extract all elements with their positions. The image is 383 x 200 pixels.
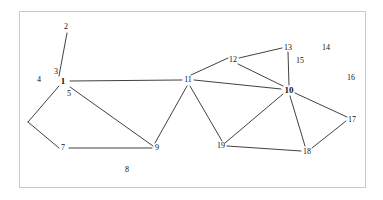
graph-edge-9-11	[155, 86, 187, 143]
graph-node-label-11[interactable]: 11	[184, 76, 192, 84]
graph-node-label-9[interactable]: 9	[155, 144, 159, 152]
graph-node-label-12[interactable]: 12	[229, 56, 237, 64]
graph-edge-11-19	[190, 86, 222, 141]
graph-edge-2-1	[59, 33, 67, 76]
graph-edge-1-9	[70, 87, 153, 146]
graph-edge-13-10	[288, 52, 289, 85]
graph-node-label-13[interactable]: 13	[284, 44, 292, 52]
graph-edge-19-18	[227, 146, 301, 151]
graph-edge-11-12	[191, 58, 228, 75]
graph-node-label-5[interactable]: 5	[67, 90, 71, 98]
graph-node-label-4[interactable]: 4	[37, 76, 41, 84]
graph-edge-10-18	[290, 96, 305, 146]
graph-node-label-1[interactable]: 1	[61, 77, 66, 86]
graph-edge-6-7	[28, 122, 59, 148]
graph-node-label-19[interactable]: 19	[217, 142, 225, 150]
graph-node-label-8[interactable]: 8	[125, 166, 129, 174]
graph-edge-10-17	[295, 93, 347, 117]
graph-node-label-17[interactable]: 17	[348, 116, 356, 124]
graph-node-label-16[interactable]: 16	[347, 74, 355, 82]
graph-edge-11-10	[194, 80, 281, 89]
graph-node-label-15[interactable]: 15	[296, 57, 304, 65]
graph-edge-10-19	[225, 94, 283, 143]
graph-node-label-10[interactable]: 10	[285, 86, 294, 95]
graph-edge-1-6	[28, 86, 59, 122]
graph-figure: 2314578911121314151610171819	[0, 0, 383, 200]
graph-edge-1-11	[70, 80, 182, 81]
graph-edges-canvas	[0, 0, 383, 200]
graph-edge-12-10	[238, 64, 283, 86]
graph-node-label-2[interactable]: 2	[64, 23, 68, 31]
graph-node-label-18[interactable]: 18	[303, 148, 311, 156]
graph-edge-12-13	[239, 48, 282, 58]
graph-edge-17-18	[312, 121, 346, 148]
graph-node-label-7[interactable]: 7	[61, 144, 65, 152]
graph-node-label-3[interactable]: 3	[54, 68, 58, 76]
graph-node-label-14[interactable]: 14	[322, 44, 330, 52]
